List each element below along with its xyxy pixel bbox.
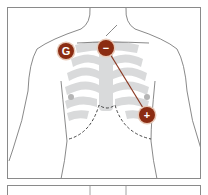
torso-diagram-panel <box>7 7 201 179</box>
next-diagram-panel <box>7 185 201 195</box>
torso-illustration <box>8 8 201 179</box>
positive-electrode: + <box>139 107 155 123</box>
next-panel-outline <box>8 186 202 195</box>
left-nipple <box>68 94 74 100</box>
ground-electrode: G <box>58 43 74 59</box>
negative-electrode: − <box>98 40 114 56</box>
right-nipple <box>144 94 150 100</box>
